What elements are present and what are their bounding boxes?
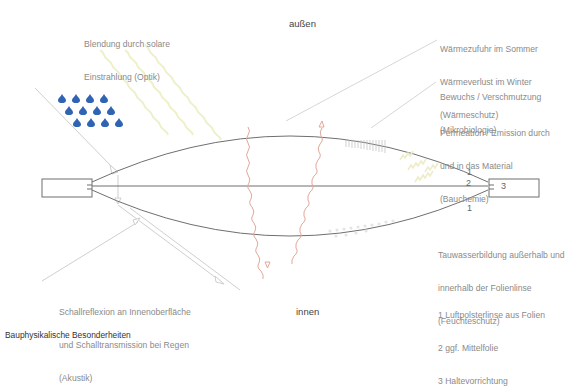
growth-hatch [346, 140, 385, 153]
label-outside: außen [289, 18, 316, 29]
label-akustik-line2: und Schalltransmission bei Regen [59, 340, 191, 351]
legend: 1 Luftpolsterlinse aus Folien 2 ggf. Mit… [438, 288, 545, 390]
label-waermeschutz-line1: Wärmezufuhr im Sommer [440, 44, 538, 55]
label-inside: innen [296, 306, 319, 317]
label-optik-line1: Blendung durch solare [84, 39, 170, 50]
label-akustik-line3: (Akustik) [59, 373, 191, 384]
label-akustik-line1: Schallreflexion an Innenoberfläche [59, 307, 191, 318]
legend-item-2: 2 ggf. Mittelfolie [438, 343, 545, 354]
part-number-middle: 2 [466, 178, 471, 188]
part-number-bottom: 1 [467, 203, 472, 213]
label-optik: Blendung durch solare Einstrahlung (Opti… [84, 17, 170, 94]
label-bauchemie: Permeation / Emission durch und in das M… [440, 106, 550, 216]
heat-radiation-arrows [247, 121, 325, 279]
lower-foil [92, 190, 488, 236]
clamp-left [42, 179, 92, 197]
label-feuchteschutz-line1: Tauwasserbildung außerhalb und [438, 250, 565, 261]
foil-cushion [92, 136, 488, 236]
label-optik-line2: Einstrahlung (Optik) [84, 72, 170, 83]
label-bauchemie-line2: und in das Material [440, 161, 550, 172]
legend-item-3: 3 Haltevorrichtung [438, 376, 545, 387]
part-number-clamp: 3 [501, 181, 506, 191]
condensation-dots [328, 219, 394, 237]
leader-lines [286, 40, 437, 128]
legend-item-1: 1 Luftpolsterlinse aus Folien [438, 310, 545, 321]
figure-caption: Bauphysikalische Besonderheiten [5, 330, 131, 340]
label-bauchemie-line1: Permeation / Emission durch [440, 128, 550, 139]
label-mikrobiologie-line1: Bewuchs / Verschmutzung [440, 92, 541, 103]
part-number-top: 1 [467, 167, 472, 177]
label-bauchemie-line3: (Bauchemie) [440, 194, 550, 205]
